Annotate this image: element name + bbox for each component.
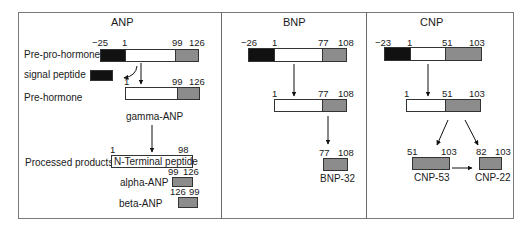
curved-arrow-icon (124, 66, 137, 78)
arrow-icon (465, 120, 478, 145)
arrows-layer (0, 0, 529, 229)
arrow-icon (437, 120, 448, 145)
